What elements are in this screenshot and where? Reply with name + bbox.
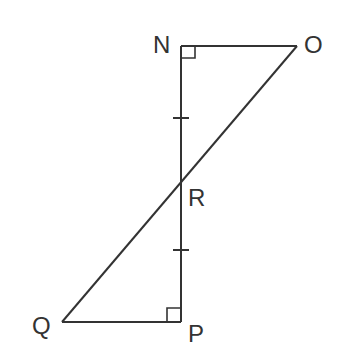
point-label-Q: Q: [32, 314, 51, 338]
point-label-O: O: [304, 33, 323, 57]
point-label-R: R: [188, 186, 205, 210]
geometry-diagram: N O R P Q: [0, 0, 344, 361]
segment-OQ: [62, 46, 297, 322]
right-angle-mark-P: [167, 308, 181, 322]
point-label-P: P: [188, 322, 204, 346]
diagram-canvas: [0, 0, 344, 361]
right-angle-mark-N: [181, 46, 195, 58]
point-label-N: N: [153, 33, 170, 57]
